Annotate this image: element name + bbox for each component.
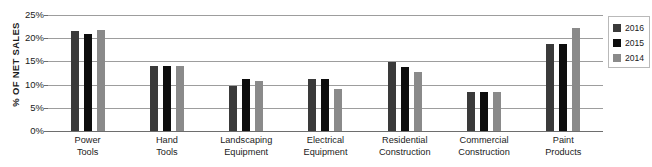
legend-label: 2015 <box>625 38 644 48</box>
category-label-line: Equipment <box>286 147 365 159</box>
category-label-line: Power <box>48 135 127 147</box>
bar <box>308 79 316 131</box>
category-label-line: Tools <box>48 147 127 159</box>
bar-group <box>207 15 286 131</box>
x-axis-category-label: HandTools <box>127 133 206 165</box>
bar <box>229 86 237 131</box>
bar <box>414 72 422 131</box>
legend-swatch-icon <box>613 24 621 32</box>
x-axis-category-label: ResidentialConstruction <box>365 133 444 165</box>
x-axis-category-label: LandscapingEquipment <box>207 133 286 165</box>
y-axis-tick: 25% <box>10 9 44 20</box>
category-label-line: Construction <box>444 147 523 159</box>
legend-label: 2016 <box>625 23 644 33</box>
bar <box>176 66 184 131</box>
category-label-line: Electrical <box>286 135 365 147</box>
bar-groups <box>48 15 603 131</box>
legend-item-2016[interactable]: 2016 <box>609 20 649 35</box>
category-label-line: Tools <box>127 147 206 159</box>
bar-group <box>444 15 523 131</box>
bar <box>97 30 105 131</box>
category-label-line: Construction <box>365 147 444 159</box>
legend-label: 2014 <box>625 53 644 63</box>
bar <box>163 66 171 131</box>
bar <box>71 31 79 131</box>
bar-group <box>365 15 444 131</box>
y-axis-tick: 20% <box>10 32 44 43</box>
bar <box>401 67 409 131</box>
y-axis-tick-labels: 25%20%15%10%5%0% <box>6 15 44 131</box>
bar-group <box>524 15 603 131</box>
x-axis-category-label: PowerTools <box>48 133 127 165</box>
bar <box>546 44 554 131</box>
bar <box>321 79 329 131</box>
x-axis-category-labels: PowerToolsHandToolsLandscapingEquipmentE… <box>48 133 603 165</box>
legend-item-2015[interactable]: 2015 <box>609 35 649 50</box>
bar-group <box>286 15 365 131</box>
legend-swatch-icon <box>613 39 621 47</box>
bar <box>572 28 580 131</box>
bar-chart: % OF NET SALES 25%20%15%10%5%0% PowerToo… <box>0 0 652 167</box>
legend-swatch-icon <box>613 54 621 62</box>
bar <box>493 92 501 131</box>
legend: 201620152014 <box>608 16 650 68</box>
y-axis-tick: 15% <box>10 55 44 66</box>
bar <box>467 92 475 131</box>
bar <box>150 66 158 131</box>
y-axis-tick: 5% <box>10 102 44 113</box>
bar <box>84 34 92 131</box>
category-label-line: Landscaping <box>207 135 286 147</box>
category-label-line: Paint <box>524 135 603 147</box>
bar-group <box>48 15 127 131</box>
category-label-line: Products <box>524 147 603 159</box>
bar <box>480 92 488 131</box>
category-label-line: Residential <box>365 135 444 147</box>
bar <box>559 44 567 131</box>
y-axis-tick: 0% <box>10 125 44 136</box>
x-axis-category-label: ElectricalEquipment <box>286 133 365 165</box>
bar <box>255 81 263 131</box>
category-label-line: Hand <box>127 135 206 147</box>
legend-item-2014[interactable]: 2014 <box>609 50 649 65</box>
x-axis-category-label: CommercialConstruction <box>444 133 523 165</box>
category-label-line: Commercial <box>444 135 523 147</box>
category-label-line: Equipment <box>207 147 286 159</box>
bar <box>388 62 396 131</box>
y-axis-tick: 10% <box>10 79 44 90</box>
bar <box>334 89 342 131</box>
bar-group <box>127 15 206 131</box>
bar <box>242 79 250 131</box>
gridline-0 <box>48 131 603 132</box>
x-axis-category-label: PaintProducts <box>524 133 603 165</box>
